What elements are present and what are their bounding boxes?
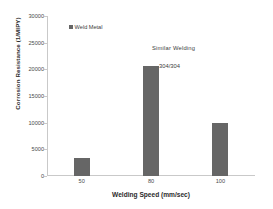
y-axis-tick-mark bbox=[44, 16, 47, 17]
bars-layer bbox=[47, 16, 255, 176]
y-axis-tick-label: 25000 bbox=[14, 40, 44, 46]
x-axis-tick-labels: 5080100 bbox=[47, 178, 255, 188]
y-axis-tick-label: 5000 bbox=[14, 146, 44, 152]
x-axis-tick-label: 50 bbox=[62, 178, 102, 184]
y-axis-tick-mark bbox=[44, 123, 47, 124]
y-axis-tick-mark bbox=[44, 69, 47, 70]
bar bbox=[212, 123, 228, 176]
annotation-similar-welding: Similar Welding bbox=[152, 45, 195, 51]
legend: Weld Metal bbox=[69, 24, 102, 30]
y-axis-tick-mark bbox=[44, 43, 47, 44]
y-axis-tick-label: 30000 bbox=[14, 13, 44, 19]
bar bbox=[143, 66, 159, 176]
x-axis-tick-label: 100 bbox=[200, 178, 240, 184]
plot-area bbox=[47, 16, 255, 176]
y-axis-tick-label: 10000 bbox=[14, 120, 44, 126]
annotation-material-grade: 304/304 bbox=[159, 63, 180, 69]
legend-swatch-icon bbox=[69, 25, 73, 29]
bar-chart: Corrosion Resistance (1/MIPY) 0500010000… bbox=[0, 0, 273, 209]
y-axis-tick-label: 15000 bbox=[14, 93, 44, 99]
y-axis-tick-labels: 050001000015000200002500030000 bbox=[14, 0, 44, 209]
y-axis-tick-mark bbox=[44, 176, 47, 177]
legend-label: Weld Metal bbox=[75, 24, 103, 30]
x-axis-tick-label: 80 bbox=[131, 178, 171, 184]
x-axis-title: Welding Speed (mm/sec) bbox=[47, 191, 255, 198]
y-axis-tick-label: 20000 bbox=[14, 66, 44, 72]
y-axis-tick-mark bbox=[44, 96, 47, 97]
y-axis-tick-label: 0 bbox=[14, 173, 44, 179]
y-axis-tick-mark bbox=[44, 149, 47, 150]
bar bbox=[74, 158, 90, 176]
